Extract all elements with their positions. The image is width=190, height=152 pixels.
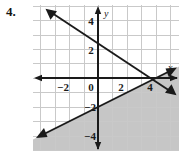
coordinate-plane: −2 0 2 4 4 2 −2 −4 y x	[33, 5, 179, 151]
x-axis-name-label: x	[167, 62, 173, 73]
x-tick-label-neg2: −2	[57, 81, 69, 93]
y-axis-name-label: y	[103, 8, 109, 19]
x-tick-label-0: 0	[88, 81, 94, 93]
problem-number-label: 4.	[6, 4, 16, 20]
y-tick-label-4: 4	[88, 15, 94, 27]
x-tick-label-2: 2	[118, 81, 124, 93]
y-tick-label-2: 2	[88, 44, 94, 56]
coordinate-plane-svg: −2 0 2 4 4 2 −2 −4 y x	[33, 5, 179, 151]
x-tick-label-4: 4	[147, 81, 153, 93]
y-tick-label-neg2: −2	[84, 101, 96, 113]
worksheet-graph-figure: 4.	[0, 0, 190, 152]
y-tick-label-neg4: −4	[84, 130, 96, 142]
